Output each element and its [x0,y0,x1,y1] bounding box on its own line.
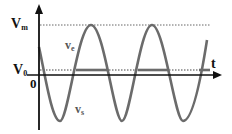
vs-label: vs [75,103,84,115]
origin-label: 0 [30,77,37,90]
vs-label-sub: s [81,108,84,117]
v0-label-main: V [13,62,23,77]
vm-label-sub: m [21,23,28,32]
diagram-graphics [0,0,232,134]
waveform-diagram: Vm V0 0 t ve vs [0,0,232,134]
vm-label-main: V [11,16,21,31]
voltage-axis-arrow-icon [35,4,43,14]
v0-label-sub: 0 [23,69,27,78]
ve-label: ve [65,39,75,51]
time-axis-label: t [211,57,216,71]
vm-label: Vm [11,17,28,31]
time-axis-arrow-icon [213,71,222,79]
ve-label-sub: e [71,44,75,53]
v0-label: V0 [13,63,27,77]
